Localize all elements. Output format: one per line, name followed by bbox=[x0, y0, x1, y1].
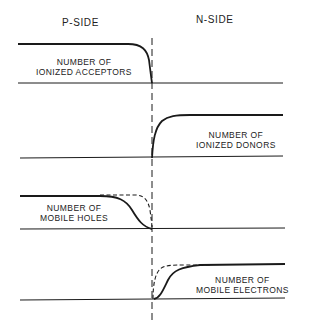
acceptors-label-line2: IONIZED ACCEPTORS bbox=[36, 67, 132, 77]
electrons-label-line1: NUMBER OF bbox=[196, 275, 289, 285]
electrons-label-line2: MOBILE ELECTRONS bbox=[196, 285, 289, 295]
acceptors-label: NUMBER OF IONIZED ACCEPTORS bbox=[36, 57, 132, 77]
holes-label: NUMBER OF MOBILE HOLES bbox=[40, 203, 108, 223]
holes-label-line2: MOBILE HOLES bbox=[40, 213, 108, 223]
donors-label: NUMBER OF IONIZED DONORS bbox=[196, 130, 276, 150]
donors-label-line2: IONIZED DONORS bbox=[196, 140, 276, 150]
holes-label-line1: NUMBER OF bbox=[40, 203, 108, 213]
electrons-label: NUMBER OF MOBILE ELECTRONS bbox=[196, 275, 289, 295]
acceptors-label-line1: NUMBER OF bbox=[36, 57, 132, 67]
holes-baseline bbox=[20, 228, 285, 229]
donors-label-line1: NUMBER OF bbox=[196, 130, 276, 140]
